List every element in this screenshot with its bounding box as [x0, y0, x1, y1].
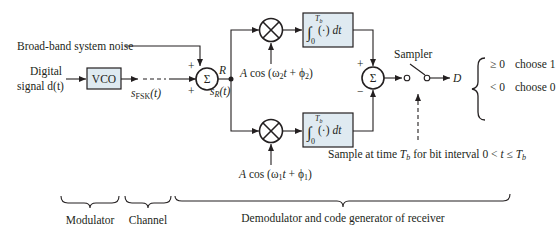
lower-branch-line	[231, 79, 259, 131]
rule1-condition: ≥ 0	[490, 58, 505, 70]
summer-1-plus-top: +	[188, 60, 195, 72]
modulator-brace	[61, 196, 119, 208]
sampler-contact-in	[404, 75, 410, 81]
summer-2-minus: −	[357, 85, 364, 97]
decision-brace	[472, 58, 485, 120]
digital-signal-label-line2: signal d(t)	[17, 80, 64, 93]
fsk-receiver-diagram: Digital signal d(t) VCO sFSK(t) Broad-ba…	[0, 0, 558, 230]
channel-brace	[125, 196, 171, 208]
s-fsk-label: sFSK(t)	[131, 87, 161, 101]
demodulator-brace	[175, 194, 510, 207]
svg-text:0: 0	[311, 37, 315, 46]
summer-2-plus: +	[357, 58, 364, 70]
summer-1-plus-bottom: +	[188, 85, 195, 97]
svg-text:(·) dt: (·) dt	[318, 124, 342, 137]
digital-signal-label-line1: Digital	[30, 65, 62, 78]
lower-carrier-label: A cos (ω1t + ϕ1)	[238, 168, 312, 182]
sampler-switch	[410, 64, 425, 75]
output-d-label: D	[452, 72, 462, 84]
r-label: R	[218, 64, 226, 76]
svg-text:(·) dt: (·) dt	[318, 24, 342, 37]
sampler-label: Sampler	[394, 48, 432, 61]
section-label-demodulator: Demodulator and code generator of receiv…	[241, 212, 445, 225]
sample-time-note: Sample at time Tb for bit interval 0 < t…	[328, 148, 526, 162]
section-label-modulator: Modulator	[66, 214, 115, 226]
svg-text:0: 0	[311, 137, 315, 146]
upper-carrier-label: A cos (ω2t + ϕ2)	[239, 67, 313, 81]
rule1-action: choose 1	[515, 58, 556, 70]
noise-label: Broad-band system noise	[17, 40, 133, 53]
s-r-label: sR(t)	[210, 85, 230, 99]
vco-label: VCO	[92, 73, 116, 85]
rule2-action: choose 0	[515, 81, 556, 93]
summer-1-symbol: Σ	[204, 73, 211, 85]
rule2-condition: < 0	[490, 81, 505, 93]
section-label-channel: Channel	[129, 214, 167, 226]
summer-2-symbol: Σ	[370, 72, 377, 84]
sampler-contact-out	[424, 75, 430, 81]
